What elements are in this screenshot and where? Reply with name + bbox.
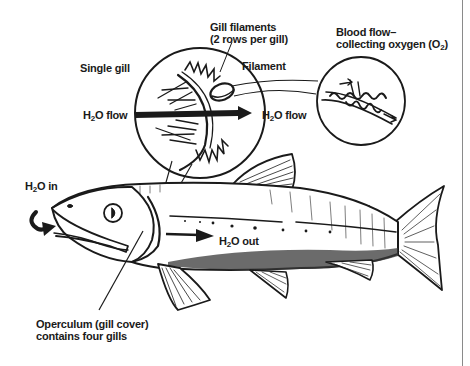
operculum-line2: contains four gills	[36, 330, 148, 342]
fish-body	[52, 154, 444, 310]
label-operculum: Operculum (gill cover) contains four gil…	[36, 318, 148, 342]
fish-gill-illustration	[0, 0, 470, 366]
label-h2o-out: H2O out	[219, 235, 259, 247]
blood-flow-line2: collecting oxygen (O2)	[336, 38, 448, 50]
operculum-line1: Operculum (gill cover)	[36, 318, 148, 330]
label-single-gill: Single gill	[80, 62, 130, 74]
label-blood-flow: Blood flow– collecting oxygen (O2)	[336, 26, 448, 50]
filament-magnifier	[317, 57, 405, 145]
label-h2o-flow-right: H2O flow	[262, 109, 306, 121]
gill-filaments-line2: (2 rows per gill)	[210, 33, 288, 45]
diagram-canvas: Gill filaments (2 rows per gill) Blood f…	[0, 0, 470, 366]
frame-border	[462, 0, 463, 366]
h2o-in-arrow	[31, 212, 56, 236]
label-h2o-flow-left: H2O flow	[83, 109, 127, 121]
h2o-flow-arrow	[135, 106, 252, 120]
label-filament: Filament	[242, 60, 286, 72]
filament-connector-lines	[232, 80, 318, 96]
label-gill-filaments: Gill filaments (2 rows per gill)	[210, 21, 288, 45]
label-h2o-in: H2O in	[25, 180, 58, 192]
gill-filaments-line1: Gill filaments	[210, 21, 288, 33]
blood-flow-line1: Blood flow–	[336, 26, 448, 38]
gill-filaments-leader	[220, 42, 232, 72]
